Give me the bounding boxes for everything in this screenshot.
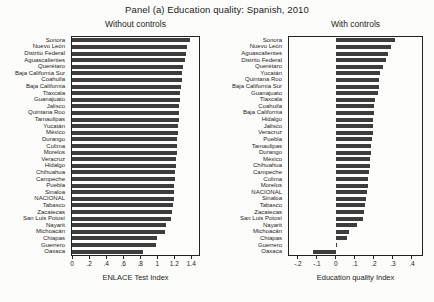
tick-mark <box>354 256 355 259</box>
bar-morelos <box>336 184 368 188</box>
tick-mark <box>174 256 175 259</box>
tick-label: -.2 <box>288 260 308 267</box>
bar-baja-california <box>72 85 181 89</box>
bar-sonora <box>336 38 395 42</box>
state-label: Baja California <box>216 109 285 115</box>
bar-san-luis-potosí <box>72 217 171 221</box>
state-label: Querétaro <box>216 63 285 69</box>
state-label: Guerrero <box>4 242 68 248</box>
state-label: Quintana Roo <box>4 109 68 115</box>
bar-guerrero <box>72 243 156 247</box>
bar-tlaxcala <box>336 98 375 102</box>
state-label: Chihuahua <box>216 162 285 168</box>
tick-mark <box>316 256 317 259</box>
state-label: Baja California Sur <box>4 70 68 76</box>
state-label: Nuevo León <box>4 43 68 49</box>
bar-hidalgo <box>72 164 176 168</box>
state-label: Querétaro <box>4 63 68 69</box>
bar-baja-california-sur <box>336 85 379 89</box>
state-label: Durango <box>4 136 68 142</box>
plot-area <box>288 36 423 256</box>
bar-baja-california-sur <box>72 71 182 75</box>
bar-sinaloa <box>336 197 366 201</box>
bar-tabasco <box>336 203 365 207</box>
state-label: Tabasco <box>4 202 68 208</box>
tick-mark <box>106 256 107 259</box>
state-label: Michoacán <box>4 228 68 234</box>
state-label: Aguascalientes <box>4 57 68 63</box>
bar-oaxaca <box>72 250 143 254</box>
bar-nuevo-león <box>336 45 391 49</box>
tick-mark <box>140 256 141 259</box>
state-label: Chihuahua <box>4 169 68 175</box>
state-label: Quintana Roo <box>216 76 285 82</box>
state-label: Baja California Sur <box>216 83 285 89</box>
bar-nuevo-león <box>72 45 187 49</box>
state-label: Veracruz <box>216 129 285 135</box>
state-label: Yucatán <box>216 70 285 76</box>
state-label: Baja California <box>4 83 68 89</box>
bar-guanajuato <box>72 98 180 102</box>
state-label: San Luis Potosí <box>216 215 285 221</box>
subplot-title: Without controls <box>71 19 200 29</box>
figure-panel-a: Panel (a) Education quality: Spanish, 20… <box>0 0 434 302</box>
bar-jalisco <box>336 124 373 128</box>
state-label: Oaxaca <box>216 248 285 254</box>
bar-quintana-roo <box>72 111 179 115</box>
bar-sinaloa <box>72 190 174 194</box>
state-label: Guanajuato <box>216 90 285 96</box>
bar-tamaulipas <box>72 118 179 122</box>
bar-veracruz <box>72 157 176 161</box>
x-axis-tick-labels: -.2-.10.1.2.3.4 <box>289 260 422 268</box>
chart-without-controls: Without controls SonoraNuevo LeónDistrit… <box>4 16 200 298</box>
bar-nacional <box>336 190 368 194</box>
state-label: Puebla <box>4 182 68 188</box>
state-label: Sinaloa <box>4 189 68 195</box>
state-label: Coahuila <box>4 76 68 82</box>
bar-colima <box>72 144 177 148</box>
state-label: San Luis Potosí <box>4 215 68 221</box>
x-axis-title: Education quality Index <box>268 273 434 282</box>
state-label: Zacatecas <box>4 209 68 215</box>
bar-puebla <box>336 137 372 141</box>
state-label: Yucatán <box>4 123 68 129</box>
tick-mark <box>411 256 412 259</box>
bar-coahuila <box>72 78 182 82</box>
state-label: Distrito Federal <box>216 57 285 63</box>
bar-tabasco <box>72 203 173 207</box>
state-label: Sonora <box>216 37 285 43</box>
bar-veracruz <box>336 131 373 135</box>
bar-yucatán <box>72 124 178 128</box>
state-label: México <box>216 156 285 162</box>
bar-nayarit <box>72 223 166 227</box>
bar-querétaro <box>336 65 383 69</box>
state-label: Tlaxcala <box>4 90 68 96</box>
state-label: Jalisco <box>4 103 68 109</box>
state-label: Guanajuato <box>4 96 68 102</box>
bar-michoacán <box>336 230 349 234</box>
bar-morelos <box>72 151 177 155</box>
state-label: Jalisco <box>216 123 285 129</box>
bar-yucatán <box>336 71 380 75</box>
state-label: Chiapas <box>216 235 285 241</box>
bar-campeche <box>72 177 175 181</box>
chart-with-controls: With controls SonoraNuevo LeónAguascalie… <box>216 16 423 298</box>
tick-mark <box>89 256 90 259</box>
tick-mark <box>373 256 374 259</box>
state-label: Morelos <box>216 182 285 188</box>
bar-michoacán <box>72 230 165 234</box>
bar-chiapas <box>72 236 157 240</box>
category-axis: SonoraNuevo LeónDistrito FederalAguascal… <box>4 36 68 256</box>
bar-chihuahua <box>336 164 370 168</box>
state-label: Distrito Federal <box>4 50 68 56</box>
tick-mark <box>157 256 158 259</box>
bar-guanajuato <box>336 91 378 95</box>
state-label: Hidalgo <box>216 116 285 122</box>
state-label: Campeche <box>4 176 68 182</box>
state-label: México <box>4 129 68 135</box>
tick-mark <box>191 256 192 259</box>
bar-aguascalientes <box>336 52 388 56</box>
bar-san-luis-potosí <box>336 217 363 221</box>
bar-guerrero <box>336 243 338 247</box>
state-label: Aguascalientes <box>216 50 285 56</box>
